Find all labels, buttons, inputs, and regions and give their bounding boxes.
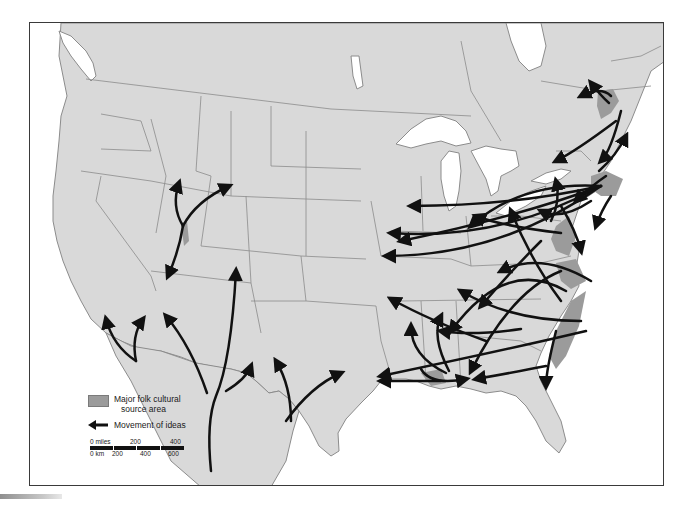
scale-km-label: 0 km [90,450,104,457]
scale-km-tick-400: 400 [140,450,151,457]
movement-label: Movement of ideas [114,420,186,430]
decorative-strip [0,494,62,499]
scale-miles-label: 0 miles [90,438,111,445]
source-area-label-line2: source area [114,404,181,414]
scale-km-tick-200: 200 [112,450,123,457]
scale-miles-tick-400: 400 [170,438,181,445]
source-area-swatch [88,395,109,407]
scale-km-tick-600: 600 [168,450,179,457]
scale-bar: 0 miles 200 400 0 km 200 400 600 [90,438,190,458]
legend-movement: Movement of ideas [88,420,238,430]
scale-miles-tick-200: 200 [130,438,141,445]
map-legend: Major folk cultural source area Movement… [88,394,238,434]
source-area-label-line1: Major folk cultural [114,394,181,404]
arrow-left-icon [88,420,110,430]
legend-source-area: Major folk cultural source area [88,394,238,414]
